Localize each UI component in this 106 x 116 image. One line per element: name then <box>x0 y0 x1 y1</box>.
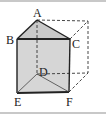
label-E: E <box>14 95 21 109</box>
label-A: A <box>33 6 42 20</box>
top-triangle-face <box>17 20 70 39</box>
label-F: F <box>66 95 73 109</box>
label-C: C <box>72 37 80 51</box>
label-B: B <box>6 33 14 47</box>
prism-diagram: A B C D E F <box>0 0 106 116</box>
label-D: D <box>39 65 48 79</box>
figure-frame: A B C D E F <box>0 0 106 116</box>
